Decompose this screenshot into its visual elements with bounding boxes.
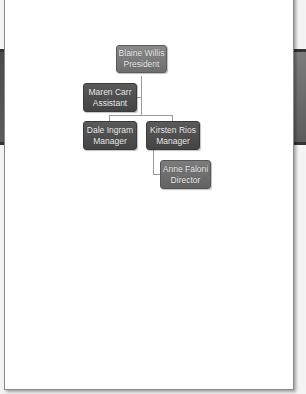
org-node-manager-dale[interactable]: Dale Ingram Manager	[83, 121, 137, 150]
connector-director-vertical	[153, 149, 154, 175]
org-node-director[interactable]: Anne Faloni Director	[160, 160, 211, 189]
org-node-president[interactable]: Blaine Willis President	[116, 45, 167, 73]
node-title: Assistant	[84, 98, 136, 109]
node-title: Manager	[147, 136, 199, 147]
document-page: Blaine Willis President Maren Carr Assis…	[4, 0, 294, 390]
node-name: Dale Ingram	[84, 125, 136, 136]
connector-managers-horizontal	[109, 115, 173, 116]
node-title: Director	[161, 175, 210, 186]
connector-president-trunk	[141, 76, 142, 116]
org-node-manager-kirsten[interactable]: Kirsten Rios Manager	[146, 121, 200, 150]
node-name: Anne Faloni	[161, 164, 210, 175]
node-name: Kirsten Rios	[147, 125, 199, 136]
node-name: Blaine Willis	[117, 48, 166, 59]
org-node-assistant[interactable]: Maren Carr Assistant	[83, 83, 137, 112]
node-name: Maren Carr	[84, 87, 136, 98]
node-title: President	[117, 59, 166, 70]
node-title: Manager	[84, 136, 136, 147]
